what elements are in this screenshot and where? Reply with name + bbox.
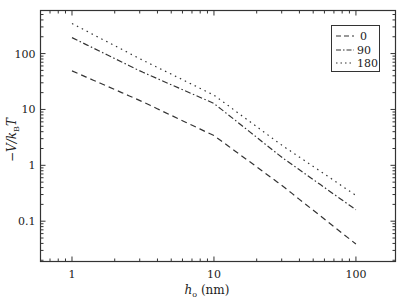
- x-tick-label: 1: [68, 268, 75, 281]
- legend: 0 90 180: [332, 26, 380, 72]
- series-line-180: [72, 24, 356, 196]
- x-axis-label: ho (nm): [185, 283, 230, 299]
- x-tick-label: 10: [207, 268, 221, 281]
- y-axis-label: −V/kBT: [5, 117, 21, 162]
- y-tick-label: 0.1: [18, 215, 36, 228]
- y-tick-label: 100: [15, 48, 36, 61]
- legend-label-90: 90: [357, 44, 371, 57]
- series-line-0: [72, 71, 356, 244]
- chart: 1101000.1110100 ho (nm) −V/kBT 0 90 180: [0, 0, 403, 301]
- legend-label-0: 0: [360, 30, 367, 43]
- plot-lines: [72, 24, 356, 245]
- y-tick-label: 1: [29, 159, 36, 172]
- legend-label-180: 180: [357, 57, 378, 70]
- y-tick-label: 10: [22, 103, 36, 116]
- axis-tick-labels: 1101000.1110100: [15, 48, 367, 281]
- series-line-90: [72, 38, 356, 210]
- x-tick-label: 100: [345, 268, 366, 281]
